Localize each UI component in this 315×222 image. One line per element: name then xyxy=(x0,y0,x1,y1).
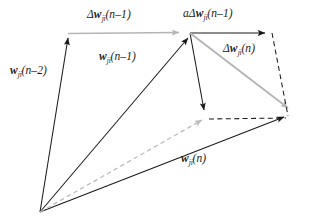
vector-gradient-step xyxy=(190,33,204,110)
vector-canvas xyxy=(0,0,315,222)
label-delta-w-n-minus-1: Δwji(n–1) xyxy=(87,8,131,20)
arg-text: (n) xyxy=(241,42,255,54)
label-delta-w-n: Δwji(n) xyxy=(223,42,255,54)
w-glyph: w xyxy=(94,8,102,20)
arg-text: (n–1) xyxy=(105,8,130,20)
label-momentum-delta-w-n-minus-1: aΔwji(n–1) xyxy=(183,7,233,19)
vector-diagram-figure: Δwji(n–1) aΔwji(n–1) Δwji(n) wji(n–2) wj… xyxy=(0,0,315,222)
subscript-ji: ji xyxy=(18,70,22,79)
subscript-ji: ji xyxy=(107,56,111,65)
w-glyph: w xyxy=(181,152,189,164)
subscript-ji: ji xyxy=(189,158,193,167)
w-glyph: w xyxy=(230,42,238,54)
delta-glyph: Δ xyxy=(87,8,94,20)
guide-dashed-right xyxy=(272,33,288,116)
arg-text: (n–1) xyxy=(207,7,232,19)
label-w-n-minus-1: wji(n–1) xyxy=(99,50,136,62)
delta-glyph: Δ xyxy=(223,42,230,54)
delta-glyph: Δ xyxy=(189,7,196,19)
label-w-n: wji(n) xyxy=(181,152,206,164)
subscript-ji: ji xyxy=(204,13,208,22)
w-glyph: w xyxy=(10,64,18,76)
w-glyph: w xyxy=(196,7,204,19)
subscript-ji: ji xyxy=(102,14,106,23)
w-glyph: w xyxy=(99,50,107,62)
vector-w-n xyxy=(40,117,284,212)
vector-w-n-minus-1 xyxy=(40,38,188,212)
arg-text: (n) xyxy=(193,152,207,164)
label-w-n-minus-2: wji(n–2) xyxy=(10,64,47,76)
guide-dashed-bottom xyxy=(209,118,286,119)
subscript-ji: ji xyxy=(238,48,242,57)
arg-text: (n–2) xyxy=(22,64,47,76)
vector-delta-w-n-minus-1 xyxy=(68,33,179,34)
guide-gray-dashed xyxy=(40,120,202,212)
arg-text: (n–1) xyxy=(111,50,136,62)
